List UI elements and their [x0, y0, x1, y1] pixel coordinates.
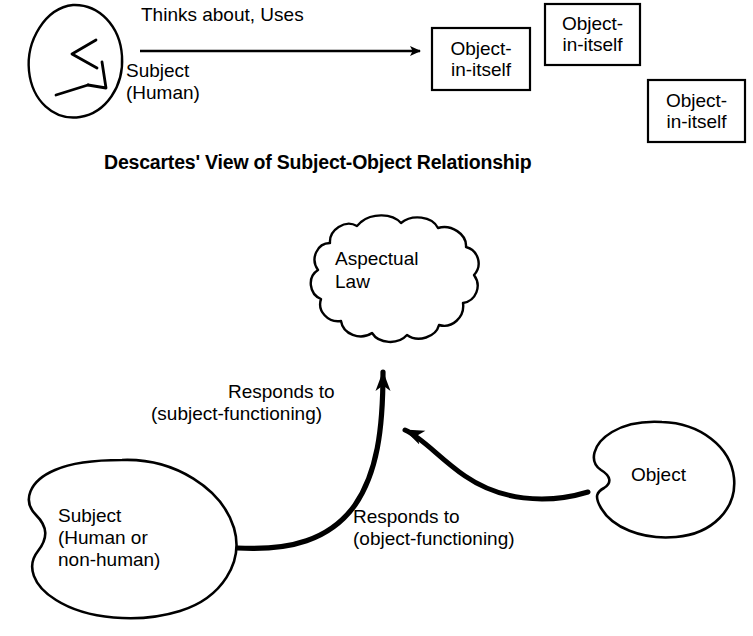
top-diagram-caption: Descartes' View of Subject-Object Relati… [104, 152, 531, 173]
top-subject-label-line2: (Human) [126, 82, 200, 103]
aspectual-law-line1: Aspectual [335, 248, 418, 269]
bottom-object-label: Object [631, 464, 686, 485]
object-functioning-label-line2: (object-functioning) [353, 528, 515, 549]
object-box-1-line1: Object- [432, 38, 530, 59]
aspectual-law-line2: Law [335, 271, 370, 292]
object-box-3-line1: Object- [648, 90, 745, 111]
object-functioning-arrow [405, 430, 588, 499]
object-box-3-line2: in-itself [648, 111, 745, 132]
object-box-1-line2: in-itself [432, 59, 530, 80]
object-functioning-label-line1: Responds to [353, 506, 460, 527]
top-subject-shape [29, 5, 122, 118]
object-box-2-line1: Object- [545, 13, 640, 34]
bottom-subject-label-line3: non-human) [58, 549, 160, 570]
subject-functioning-label-line2: (subject-functioning) [151, 403, 322, 424]
subject-functioning-label-line1: Responds to [228, 381, 335, 402]
thinks-about-label: Thinks about, Uses [141, 4, 304, 25]
bottom-subject-label-line2: (Human or [58, 527, 148, 548]
bottom-subject-label-line1: Subject [58, 505, 121, 526]
top-subject-label-line1: Subject [126, 60, 189, 81]
object-box-2-line2: in-itself [545, 34, 640, 55]
diagram-page: Thinks about, Uses Subject (Human) Objec… [0, 0, 753, 636]
